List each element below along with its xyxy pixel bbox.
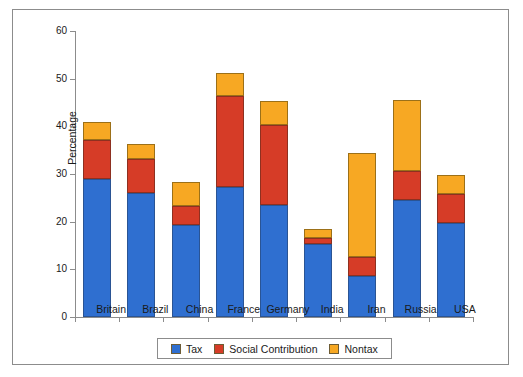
legend-label: Tax [186,343,202,355]
bar-segment-social[interactable] [83,140,111,179]
legend-item[interactable]: Tax [171,343,202,355]
x-axis-line [75,317,474,318]
y-tick-label: 30 [56,167,67,180]
legend-label: Social Contribution [229,343,317,355]
bar-segment-social[interactable] [393,171,421,200]
plot-area: 0102030405060 [75,31,473,317]
x-tick-mark [163,317,164,322]
bar-segment-tax[interactable] [83,179,111,317]
y-tick-mark [70,174,75,175]
x-tick-mark [252,317,253,322]
bar-segment-social[interactable] [437,194,465,223]
bar-segment-social[interactable] [127,159,155,193]
bar-segment-social[interactable] [216,96,244,187]
y-tick-label: 40 [56,119,67,132]
x-tick-mark [385,317,386,322]
chart-legend: TaxSocial ContributionNontax [157,338,392,359]
bar-segment-tax[interactable] [393,200,421,317]
bar-group[interactable] [393,31,421,317]
bar-segment-social[interactable] [172,206,200,225]
bar-segment-tax[interactable] [216,187,244,317]
bar-segment-nontax[interactable] [172,182,200,206]
bar-group[interactable] [127,31,155,317]
bar-group[interactable] [260,31,288,317]
bar-segment-tax[interactable] [127,193,155,317]
bar-segment-social[interactable] [348,257,376,276]
bar-segment-nontax[interactable] [83,122,111,141]
bar-group[interactable] [172,31,200,317]
bar-segment-nontax[interactable] [260,101,288,125]
legend-swatch-icon [329,344,339,354]
y-tick-mark [70,79,75,80]
x-tick-mark [208,317,209,322]
legend-label: Nontax [344,343,377,355]
x-tick-mark [340,317,341,322]
bar-group[interactable] [304,31,332,317]
bar-group[interactable] [83,31,111,317]
y-tick-mark [70,222,75,223]
bar-segment-nontax[interactable] [127,144,155,158]
y-tick-label: 20 [56,215,67,228]
bar-segment-tax[interactable] [260,205,288,317]
x-tick-mark [473,317,474,322]
legend-swatch-icon [214,344,224,354]
y-tick-label: 0 [61,310,67,323]
legend-swatch-icon [171,344,181,354]
y-tick-mark [70,126,75,127]
bar-group[interactable] [348,31,376,317]
bar-group[interactable] [216,31,244,317]
bar-segment-nontax[interactable] [393,100,421,172]
bar-group[interactable] [437,31,465,317]
bar-segment-nontax[interactable] [348,153,376,258]
bar-segment-social[interactable] [260,125,288,206]
x-tick-mark [429,317,430,322]
y-tick-mark [70,269,75,270]
legend-item[interactable]: Social Contribution [214,343,317,355]
y-tick-label: 50 [56,72,67,85]
bar-segment-nontax[interactable] [437,175,465,194]
x-category-label: USA [430,303,500,315]
y-tick-label: 10 [56,262,67,275]
bar-segment-nontax[interactable] [216,73,244,96]
chart-figure: Percentage 0102030405060 BritainBrazilCh… [12,9,509,365]
x-tick-mark [296,317,297,322]
legend-item[interactable]: Nontax [329,343,377,355]
x-tick-mark [75,317,76,322]
x-tick-mark [119,317,120,322]
y-tick-mark [70,31,75,32]
bar-segment-social[interactable] [304,238,332,243]
y-tick-label: 60 [56,24,67,37]
bar-segment-nontax[interactable] [304,229,332,239]
